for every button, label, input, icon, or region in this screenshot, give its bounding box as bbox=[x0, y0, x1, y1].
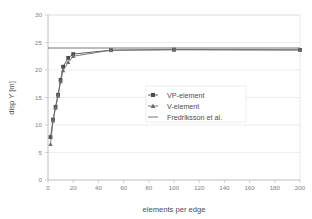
legend-label: VP-element bbox=[167, 91, 205, 100]
legend-label: Fredriksson et al. bbox=[167, 113, 222, 122]
square-marker-icon bbox=[66, 56, 70, 60]
x-tick-label: 60 bbox=[120, 184, 127, 191]
x-tick-label: 180 bbox=[270, 184, 281, 191]
y-tick-label: 20 bbox=[35, 66, 42, 73]
legend-label: V-element bbox=[167, 102, 199, 111]
x-tick-label: 100 bbox=[169, 184, 180, 191]
x-tick-label: 140 bbox=[219, 184, 230, 191]
y-tick-label: 15 bbox=[35, 94, 42, 101]
x-tick-label: 40 bbox=[95, 184, 102, 191]
x-tick-label: 0 bbox=[46, 184, 50, 191]
x-axis-ticks bbox=[48, 180, 300, 183]
chart-figure: 051015202530 020406080100120140160180200… bbox=[0, 0, 312, 219]
x-axis-tick-labels: 020406080100120140160180200 bbox=[46, 184, 305, 191]
x-tick-label: 200 bbox=[295, 184, 306, 191]
x-tick-label: 160 bbox=[244, 184, 255, 191]
x-axis-title: elements per edge bbox=[143, 205, 206, 214]
y-tick-label: 5 bbox=[39, 149, 43, 156]
x-tick-label: 80 bbox=[145, 184, 152, 191]
y-axis-ticks bbox=[45, 15, 48, 180]
y-axis-title: disp Y [m] bbox=[7, 81, 16, 115]
x-tick-label: 120 bbox=[194, 184, 205, 191]
y-axis-tick-labels: 051015202530 bbox=[35, 11, 42, 183]
y-tick-label: 30 bbox=[35, 11, 42, 18]
y-tick-label: 25 bbox=[35, 39, 42, 46]
square-marker-icon bbox=[151, 93, 155, 97]
chart-legend: VP-elementV-elementFredriksson et al. bbox=[146, 86, 246, 122]
x-tick-label: 20 bbox=[70, 184, 77, 191]
y-tick-label: 0 bbox=[39, 176, 43, 183]
y-tick-label: 10 bbox=[35, 121, 42, 128]
line-chart: 051015202530 020406080100120140160180200… bbox=[0, 0, 312, 219]
